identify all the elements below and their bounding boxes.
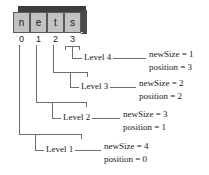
level2-drop: [52, 102, 53, 119]
level1-drop: [35, 134, 36, 151]
level-label-1: Level 1: [44, 144, 75, 154]
array-cell[interactable]: t: [47, 12, 64, 33]
level2-right-stem: [86, 102, 87, 107]
level3-left-stem: [53, 45, 54, 73]
level-label-4: Level 4: [82, 52, 113, 62]
level3-right-stem: [87, 72, 88, 77]
level3-position: position = 2: [139, 91, 182, 101]
box-right-face: [81, 10, 87, 32]
level1-left-stem: [19, 45, 20, 135]
level2-top-span: [36, 102, 86, 103]
level4-position: position = 3: [149, 62, 192, 72]
level-label-3: Level 3: [79, 81, 110, 91]
level2-position: position = 1: [123, 122, 166, 132]
level2-left-stem: [36, 45, 37, 103]
level1-top-span: [19, 134, 81, 135]
level2-newsize: newSize = 3: [123, 109, 168, 119]
array-cell[interactable]: n: [13, 12, 30, 33]
level4-bracket-right-tick: [79, 46, 80, 50]
level4-newsize: newSize = 1: [149, 49, 194, 59]
level1-newsize: newSize = 4: [104, 141, 149, 151]
array-index-label: 3: [64, 34, 81, 44]
level1-position: position = 0: [104, 154, 147, 164]
level3-newsize: newSize = 2: [139, 78, 184, 88]
level3-drop: [70, 72, 71, 88]
level1-right-stem: [81, 134, 82, 139]
array-index-label: 1: [30, 34, 47, 44]
array-cell[interactable]: e: [30, 12, 47, 33]
array-index-label: 0: [13, 34, 30, 44]
level-label-2: Level 2: [61, 112, 92, 122]
array-cell[interactable]: s: [64, 12, 81, 33]
array-index-label: 2: [47, 34, 64, 44]
diagram-canvas: n e t s 0 1 2 3 Level 4 Level 3 Level 2 …: [0, 0, 209, 175]
